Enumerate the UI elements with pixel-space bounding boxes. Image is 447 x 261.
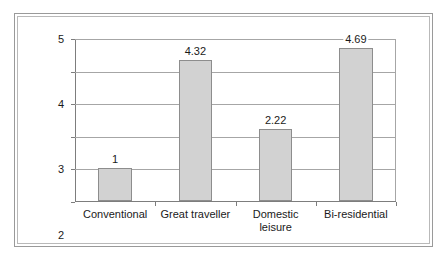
y-axis-label-2: 2 bbox=[58, 229, 64, 241]
y-tick-0: 0 bbox=[71, 202, 75, 203]
bar-value-label: 4.69 bbox=[343, 33, 368, 46]
plot-area: 0123451Conventional4.32Great traveller2.… bbox=[75, 39, 396, 202]
y-axis-label-3: 3 bbox=[58, 163, 64, 175]
x-axis-category-label: Great traveller bbox=[150, 208, 240, 221]
bar-value-label: 2.22 bbox=[263, 114, 288, 127]
plot-right-border bbox=[395, 39, 396, 202]
figure-frame: 0123451Conventional4.32Great traveller2.… bbox=[14, 13, 433, 247]
bar-value-label: 4.32 bbox=[183, 45, 208, 58]
x-tick-1 bbox=[236, 202, 237, 206]
bar[interactable] bbox=[259, 129, 293, 201]
y-tick-2: 2 bbox=[71, 137, 75, 138]
x-axis-category-label: Conventional bbox=[70, 208, 160, 221]
bar-chart: 0123451Conventional4.32Great traveller2.… bbox=[15, 14, 434, 248]
y-tick-5: 5 bbox=[71, 39, 75, 40]
bar[interactable] bbox=[98, 168, 132, 201]
x-tick-2 bbox=[316, 202, 317, 206]
x-tick-0 bbox=[155, 202, 156, 206]
x-axis-category-label: Domestic leisure bbox=[231, 208, 321, 234]
x-tick-3 bbox=[396, 202, 397, 206]
y-tick-3: 3 bbox=[71, 104, 75, 105]
y-axis-label-4: 4 bbox=[58, 98, 64, 110]
x-axis-category-label: Bi-residential bbox=[311, 208, 401, 221]
bar-value-label: 1 bbox=[110, 153, 120, 166]
y-axis-label-5: 5 bbox=[58, 33, 64, 45]
bar[interactable] bbox=[179, 60, 213, 201]
y-tick-4: 4 bbox=[71, 72, 75, 73]
y-tick-1: 1 bbox=[71, 169, 75, 170]
bar[interactable] bbox=[339, 48, 373, 201]
y-axis-line bbox=[75, 39, 76, 202]
